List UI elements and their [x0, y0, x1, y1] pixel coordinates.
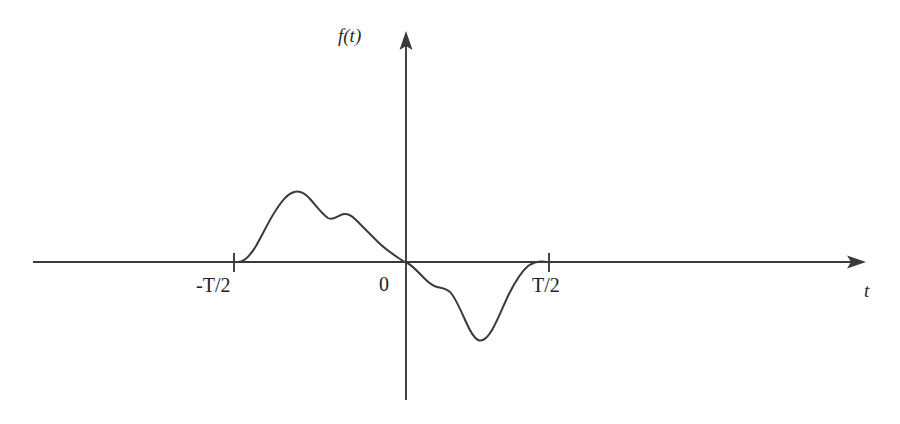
tick-label-pos-t-half: T/2	[532, 275, 560, 295]
figure-canvas: f(t) t 0 -T/2 T/2	[0, 0, 900, 424]
waveform-plot	[0, 0, 900, 424]
y-axis-label: f(t)	[338, 26, 361, 45]
origin-label: 0	[379, 274, 389, 294]
x-axis-label: t	[864, 281, 869, 300]
tick-label-neg-t-half: -T/2	[196, 275, 230, 295]
waveform-curve	[205, 191, 700, 340]
